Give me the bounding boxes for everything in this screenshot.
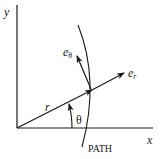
path-label: PATH — [88, 143, 112, 154]
polar-diagram: y x r θ eθ er PATH — [0, 0, 161, 159]
path-curve — [78, 25, 90, 147]
theta-arc — [69, 104, 72, 128]
e-theta-subscript: θ — [68, 51, 72, 60]
e-r-label: er — [128, 66, 137, 81]
x-axis-label: x — [146, 133, 153, 147]
radius-label: r — [45, 100, 50, 114]
e-r-subscript: r — [133, 72, 137, 81]
e-r-vector — [92, 73, 124, 90]
theta-label: θ — [76, 113, 82, 127]
e-theta-label: eθ — [63, 45, 72, 60]
y-axis-label: y — [3, 5, 10, 19]
